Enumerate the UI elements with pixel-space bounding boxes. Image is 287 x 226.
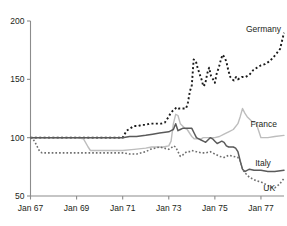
x-tick-label: Jan 71 — [110, 203, 136, 213]
series-label-germany: Germany — [246, 24, 282, 34]
y-axis-tick-labels: 50100150200 — [10, 16, 24, 201]
series-label-italy: Italy — [255, 158, 271, 168]
x-tick-label: Jan 73 — [156, 203, 182, 213]
axes-group — [31, 21, 285, 196]
x-tick-label: Jan 77 — [248, 203, 274, 213]
series-lines — [31, 33, 285, 188]
series-line-germany — [31, 33, 285, 138]
series-label-uk: UK — [263, 183, 275, 193]
x-tick-label: Jan 69 — [64, 203, 90, 213]
x-axis-tick-labels: Jan 67Jan 69Jan 71Jan 73Jan 75Jan 77 — [18, 203, 274, 213]
chart-container: 50100150200 Jan 67Jan 69Jan 71Jan 73Jan … — [0, 0, 287, 226]
line-chart: 50100150200 Jan 67Jan 69Jan 71Jan 73Jan … — [0, 0, 287, 226]
x-tick-label: Jan 67 — [18, 203, 44, 213]
y-tick-label: 100 — [10, 133, 24, 143]
series-label-france: France — [251, 119, 278, 129]
series-labels: GermanyFranceItalyUK — [246, 24, 282, 193]
series-line-uk — [31, 138, 285, 188]
series-line-france — [31, 109, 285, 151]
y-tick-label: 200 — [10, 16, 24, 26]
x-tick-label: Jan 75 — [202, 203, 228, 213]
y-tick-label: 50 — [15, 191, 25, 201]
y-tick-label: 150 — [10, 74, 24, 84]
